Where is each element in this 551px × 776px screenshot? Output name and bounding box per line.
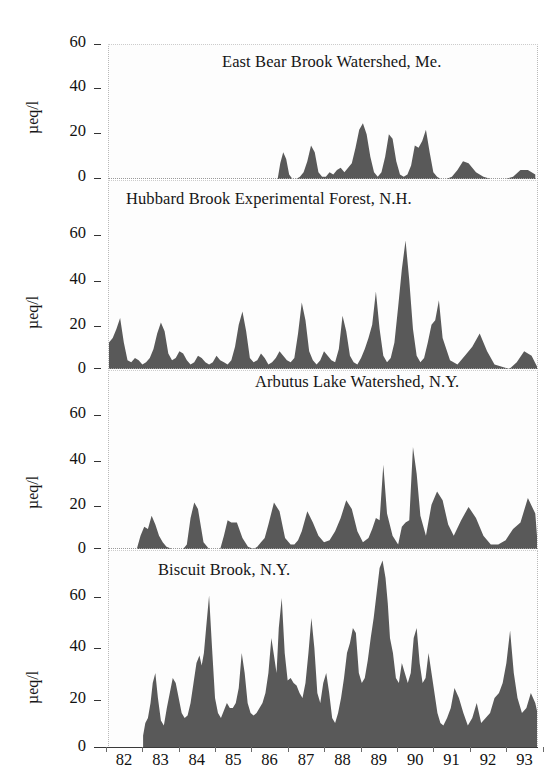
x-axis-label-91: 91: [432, 750, 472, 770]
panel4-y-axis-label: µeq/l: [24, 644, 42, 704]
panel3-baseline: [108, 548, 538, 549]
panel1-ytick-mark-20: [94, 133, 101, 134]
x-axis-label-82: 82: [104, 750, 144, 770]
x-axis-label-85: 85: [213, 750, 253, 770]
x-axis-tick-mark: [324, 747, 325, 752]
x-axis-tick-mark: [106, 747, 107, 752]
panel1-ytick-mark-0: [94, 178, 101, 179]
x-axis-tick-mark: [288, 747, 289, 752]
panel1-ytick-mark-60: [94, 44, 101, 45]
panel3-ytick-mark-0: [94, 548, 101, 549]
figure-container: 60 40 20 0 µeq/l East Bear Brook Watersh…: [0, 0, 551, 776]
x-axis-tick-mark: [506, 747, 507, 752]
panel-biscuit-brook: 60 40 20 0 µeq/l Biscuit Brook, N.Y. 828…: [0, 550, 551, 776]
x-axis-tick-mark: [397, 747, 398, 752]
panel2-area-series: [109, 181, 538, 369]
panel1-ytick-mark-40: [94, 88, 101, 89]
panel2-ytick-40: 40: [44, 269, 86, 289]
panel2-baseline: [108, 368, 538, 369]
panel3-ytick-mark-20: [94, 506, 101, 507]
x-axis-tick-mark: [361, 747, 362, 752]
panel3-y-axis-label: µeq/l: [24, 449, 42, 509]
x-axis-label-90: 90: [395, 750, 435, 770]
x-axis-label-93: 93: [504, 750, 544, 770]
panel4-area-series: [109, 551, 538, 748]
x-axis-tick-mark: [470, 747, 471, 752]
panel4-ytick-mark-40: [94, 648, 101, 649]
panel3-title: Arbutus Lake Watershed, N.Y.: [255, 372, 459, 392]
x-axis-tick-mark: [142, 747, 143, 752]
x-axis-label-87: 87: [286, 750, 326, 770]
x-axis-tick-mark: [179, 747, 180, 752]
panel1-ytick-20: 20: [44, 121, 86, 141]
panel-arbutus-lake: 60 40 20 0 µeq/l Arbutus Lake Watershed,…: [0, 370, 551, 550]
panel3-plot-area: [108, 370, 538, 549]
panel-hubbard-brook: 60 40 20 0 µeq/l Hubbard Brook Experimen…: [0, 180, 551, 370]
panel4-ytick-40: 40: [44, 636, 86, 656]
x-axis-label-89: 89: [359, 750, 399, 770]
panel4-ytick-0: 0: [44, 736, 86, 756]
panel3-ytick-mark-40: [94, 461, 101, 462]
panel1-ytick-60: 60: [44, 32, 86, 52]
panel1-title: East Bear Brook Watershed, Me.: [222, 52, 441, 72]
panel3-ytick-mark-60: [94, 415, 101, 416]
panel4-ytick-mark-60: [94, 597, 101, 598]
panel1-y-axis-label: µeq/l: [24, 74, 42, 134]
x-axis-label-88: 88: [322, 750, 362, 770]
panel2-ytick-mark-0: [94, 368, 101, 369]
x-axis-label-84: 84: [177, 750, 217, 770]
x-axis-label-92: 92: [468, 750, 508, 770]
panel2-ytick-mark-20: [94, 326, 101, 327]
panel1-baseline: [108, 178, 538, 179]
x-axis-tick-mark: [543, 747, 544, 752]
panel1-ytick-40: 40: [44, 76, 86, 96]
panel2-ytick-mark-40: [94, 281, 101, 282]
panel3-area-series: [109, 371, 538, 549]
panel2-ytick-mark-60: [94, 235, 101, 236]
panel2-title: Hubbard Brook Experimental Forest, N.H.: [126, 189, 412, 209]
panel2-ytick-60: 60: [44, 223, 86, 243]
panel4-ytick-mark-20: [94, 700, 101, 701]
x-axis-label-83: 83: [140, 750, 180, 770]
panel3-ytick-20: 20: [44, 494, 86, 514]
panel4-title: Biscuit Brook, N.Y.: [158, 560, 290, 580]
panel4-ytick-60: 60: [44, 585, 86, 605]
panel2-y-axis-label: µeq/l: [24, 269, 42, 329]
panel4-ytick-20: 20: [44, 688, 86, 708]
x-axis-tick-mark: [251, 747, 252, 752]
x-axis-tick-mark: [433, 747, 434, 752]
panel3-ytick-60: 60: [44, 403, 86, 423]
panel3-ytick-40: 40: [44, 449, 86, 469]
x-axis-label-86: 86: [250, 750, 290, 770]
panel2-ytick-20: 20: [44, 314, 86, 334]
panel-east-bear-brook: 60 40 20 0 µeq/l East Bear Brook Watersh…: [0, 0, 551, 180]
x-axis-line: [100, 747, 538, 748]
x-axis-tick-mark: [215, 747, 216, 752]
